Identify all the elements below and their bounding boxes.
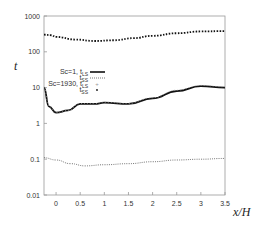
plot-frame	[44, 16, 225, 195]
y-tick-label: 1	[36, 120, 40, 127]
x-tick-label: 1	[102, 200, 106, 207]
x-tick-label: 0.5	[75, 200, 85, 207]
x-tick-label: 2.5	[172, 200, 182, 207]
y-tick-label: 10	[32, 84, 40, 91]
x-tick-label: 0	[54, 200, 58, 207]
x-axis-label: x/H	[232, 205, 252, 219]
legend-marker-dot	[96, 89, 98, 91]
legend-marker-plus: +	[95, 81, 99, 87]
y-axis-label: t	[14, 59, 18, 73]
data-series	[44, 31, 225, 166]
series-line	[44, 86, 225, 113]
y-tick-label: 0.1	[30, 156, 40, 163]
series-line	[44, 85, 225, 112]
y-tick-label: 100	[28, 48, 40, 55]
series-line	[44, 158, 225, 166]
legend-label-sc1-tls: Sc=1, tLS	[60, 68, 89, 77]
y-tick-label: 1000	[24, 13, 40, 20]
y-tick-label: 0.01	[26, 192, 40, 199]
chart: 0.010.11101001000 00.511.522.533.5 t x/H…	[0, 0, 269, 232]
x-tick-label: 3.5	[220, 200, 230, 207]
series-line	[44, 31, 225, 41]
x-tick-label: 2	[151, 200, 155, 207]
legend: Sc=1, tLS tSS Sc=1930, tLS + tSS	[48, 68, 105, 95]
x-tick-label: 1.5	[124, 200, 134, 207]
x-tick-label: 3	[199, 200, 203, 207]
x-axis-ticks: 00.511.522.533.5	[54, 192, 230, 207]
